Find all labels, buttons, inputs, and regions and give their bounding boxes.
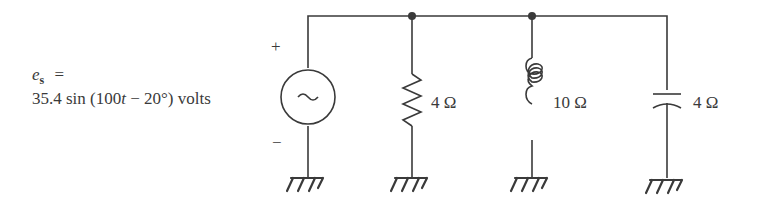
capacitor-label: 4 Ω — [693, 94, 718, 111]
ground-icon-capacitor — [646, 180, 682, 193]
top-wire — [308, 16, 667, 90]
source-expression: 35.4 sin (100t − 20°) volts — [32, 90, 211, 107]
source-symbol: es = — [32, 66, 64, 86]
equals-sign: = — [54, 65, 64, 84]
resistor-icon — [403, 16, 421, 178]
source-subscript: s — [40, 73, 45, 87]
minus-terminal-label: − — [272, 134, 282, 151]
expr-prefix: 35.4 sin (100 — [32, 89, 121, 108]
ground-icon-source — [287, 178, 323, 191]
ground-icon-resistor — [391, 178, 427, 191]
ground-icon-inductor — [511, 178, 547, 191]
resistor-label: 4 Ω — [431, 94, 456, 111]
expr-suffix: − 20°) volts — [126, 89, 211, 108]
source-symbol-e: e — [32, 65, 40, 84]
inductor-label: 10 Ω — [553, 94, 587, 111]
plus-terminal-label: + — [271, 38, 281, 55]
inductor-icon — [526, 16, 542, 178]
ac-source-icon — [281, 70, 335, 178]
capacitor-icon — [653, 94, 681, 178]
